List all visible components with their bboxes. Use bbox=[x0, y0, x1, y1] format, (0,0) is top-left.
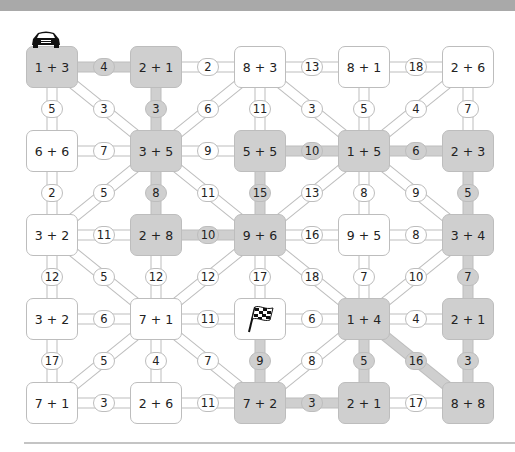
sum-cell[interactable]: 2 + 1 bbox=[130, 46, 182, 88]
sum-cell[interactable]: 8 + 8 bbox=[442, 382, 494, 424]
path-number: 4 bbox=[145, 352, 167, 370]
cell-expression: 3 + 5 bbox=[139, 144, 173, 159]
path-number: 8 bbox=[353, 184, 375, 202]
path-number: 5 bbox=[457, 184, 479, 202]
path-number: 13 bbox=[301, 184, 323, 202]
sum-cell[interactable]: 2 + 6 bbox=[442, 46, 494, 88]
path-number: 4 bbox=[405, 310, 427, 328]
cell-expression: 7 + 1 bbox=[139, 312, 173, 327]
cell-expression: 2 + 1 bbox=[451, 312, 485, 327]
cell-expression: 9 + 5 bbox=[347, 228, 381, 243]
sum-cell[interactable]: 2 + 1 bbox=[442, 298, 494, 340]
path-number: 7 bbox=[197, 352, 219, 370]
sum-cell[interactable]: 1 + 4 bbox=[338, 298, 390, 340]
path-number: 10 bbox=[197, 226, 219, 244]
cell-expression: 8 + 3 bbox=[243, 60, 277, 75]
sum-cell[interactable]: 8 + 1 bbox=[338, 46, 390, 88]
cell-expression: 5 + 5 bbox=[243, 144, 277, 159]
cell-expression: 6 + 6 bbox=[35, 144, 69, 159]
path-number: 17 bbox=[41, 352, 63, 370]
path-number: 6 bbox=[301, 310, 323, 328]
path-number: 2 bbox=[41, 184, 63, 202]
cell-expression: 3 + 2 bbox=[35, 312, 69, 327]
path-number: 3 bbox=[93, 394, 115, 412]
path-number: 5 bbox=[93, 352, 115, 370]
path-number: 3 bbox=[145, 100, 167, 118]
path-number: 2 bbox=[197, 58, 219, 76]
sum-cell[interactable]: 3 + 4 bbox=[442, 214, 494, 256]
path-number: 7 bbox=[457, 268, 479, 286]
sum-cell[interactable]: 3 + 2 bbox=[26, 298, 78, 340]
path-number: 17 bbox=[249, 268, 271, 286]
cell-expression: 8 + 8 bbox=[451, 396, 485, 411]
path-number: 6 bbox=[197, 100, 219, 118]
bottom-divider bbox=[24, 442, 515, 444]
sum-cell[interactable]: 8 + 3 bbox=[234, 46, 286, 88]
path-number: 12 bbox=[145, 268, 167, 286]
path-number: 11 bbox=[197, 184, 219, 202]
path-number: 3 bbox=[457, 352, 479, 370]
path-number: 11 bbox=[249, 100, 271, 118]
sum-cell[interactable]: 3 + 5 bbox=[130, 130, 182, 172]
path-number: 18 bbox=[301, 268, 323, 286]
path-number: 11 bbox=[197, 394, 219, 412]
path-number: 10 bbox=[301, 142, 323, 160]
path-number: 6 bbox=[93, 310, 115, 328]
sum-cell[interactable]: 3 + 2 bbox=[26, 214, 78, 256]
cell-expression: 2 + 1 bbox=[347, 396, 381, 411]
path-number: 12 bbox=[41, 268, 63, 286]
cell-expression: 1 + 5 bbox=[347, 144, 381, 159]
sum-cell[interactable]: 2 + 8 bbox=[130, 214, 182, 256]
cell-expression: 3 + 2 bbox=[35, 228, 69, 243]
path-number: 11 bbox=[197, 310, 219, 328]
path-number: 3 bbox=[301, 394, 323, 412]
cell-expression: 2 + 1 bbox=[139, 60, 173, 75]
sum-cell[interactable]: 6 + 6 bbox=[26, 130, 78, 172]
path-number: 9 bbox=[249, 352, 271, 370]
sum-cell[interactable]: 2 + 3 bbox=[442, 130, 494, 172]
sum-cell[interactable]: 9 + 5 bbox=[338, 214, 390, 256]
path-number: 17 bbox=[405, 394, 427, 412]
path-number: 13 bbox=[301, 58, 323, 76]
path-number: 16 bbox=[301, 226, 323, 244]
sum-cell[interactable]: 1 + 5 bbox=[338, 130, 390, 172]
car-icon bbox=[30, 30, 62, 48]
cell-expression: 9 + 6 bbox=[243, 228, 277, 243]
path-number: 8 bbox=[405, 226, 427, 244]
cell-expression: 3 + 4 bbox=[451, 228, 485, 243]
path-number: 5 bbox=[93, 184, 115, 202]
sum-cell[interactable]: 2 + 1 bbox=[338, 382, 390, 424]
sum-cell[interactable]: 9 + 6 bbox=[234, 214, 286, 256]
sum-cell[interactable]: 7 + 1 bbox=[130, 298, 182, 340]
path-number: 4 bbox=[93, 58, 115, 76]
sum-cell[interactable]: 7 + 2 bbox=[234, 382, 286, 424]
path-number: 3 bbox=[93, 100, 115, 118]
path-number: 5 bbox=[353, 100, 375, 118]
sum-cell[interactable]: 5 + 5 bbox=[234, 130, 286, 172]
path-number: 7 bbox=[457, 100, 479, 118]
path-number: 16 bbox=[405, 352, 427, 370]
path-number: 6 bbox=[405, 142, 427, 160]
path-number: 3 bbox=[301, 100, 323, 118]
cell-expression: 2 + 6 bbox=[139, 396, 173, 411]
path-number: 8 bbox=[301, 352, 323, 370]
sum-cell[interactable]: 2 + 6 bbox=[130, 382, 182, 424]
start-cell[interactable]: 1 + 3 bbox=[26, 46, 78, 88]
cell-expression: 2 + 3 bbox=[451, 144, 485, 159]
cell-expression: 8 + 1 bbox=[347, 60, 381, 75]
cell-expression: 1 + 4 bbox=[347, 312, 381, 327]
cell-expression: 1 + 3 bbox=[35, 60, 69, 75]
path-number: 4 bbox=[405, 100, 427, 118]
path-number: 15 bbox=[249, 184, 271, 202]
path-number: 8 bbox=[145, 184, 167, 202]
cell-expression: 7 + 1 bbox=[35, 396, 69, 411]
sum-cell[interactable]: 7 + 1 bbox=[26, 382, 78, 424]
path-number: 5 bbox=[93, 268, 115, 286]
path-number: 10 bbox=[405, 268, 427, 286]
cell-expression: 2 + 6 bbox=[451, 60, 485, 75]
path-number: 5 bbox=[353, 352, 375, 370]
finish-cell[interactable] bbox=[234, 298, 286, 340]
path-number: 7 bbox=[93, 142, 115, 160]
path-number: 9 bbox=[197, 142, 219, 160]
path-number: 7 bbox=[353, 268, 375, 286]
